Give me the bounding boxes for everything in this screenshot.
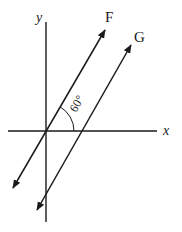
x-axis-label: x (162, 123, 170, 138)
vector-f (13, 30, 105, 188)
angle-label: 60° (66, 93, 87, 115)
vector-diagram: y x F G 60° (0, 0, 182, 232)
vector-g (37, 45, 131, 210)
vector-g-label: G (134, 29, 145, 45)
vector-f-label: F (105, 9, 113, 25)
y-axis-label: y (34, 10, 43, 25)
